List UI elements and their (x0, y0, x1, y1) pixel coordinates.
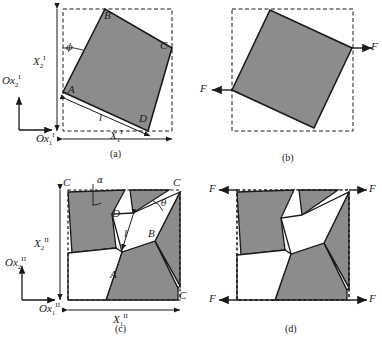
panel-c-length-label: l (124, 228, 127, 239)
panel-a-vertex-b-label: B (104, 10, 111, 21)
panel-c-angle-alpha-label: α (97, 176, 103, 185)
panel-c-caption: (c) (115, 323, 126, 334)
panel-b-force-label-right: F (371, 41, 378, 52)
panel-a-length-label: l (99, 112, 102, 123)
panel-a-square (63, 9, 172, 131)
figure-container: Ox2I Ox1I X2I X1I ϕ l A B C D (a) F F (b… (0, 0, 382, 358)
panel-c-vertex-d-label: D (112, 208, 120, 219)
panel-b (212, 9, 372, 131)
panel-a-vertex-a-label: A (68, 84, 75, 95)
panel-d-force-label-top-right: F (369, 183, 376, 194)
panel-d-force-label-bottom-left: F (209, 293, 216, 304)
panel-b-caption: (b) (282, 152, 294, 163)
panel-a-axis-x-label: Ox1I (36, 132, 55, 147)
panel-b-square (232, 10, 352, 128)
panel-a-axis-y-label: Ox2I (2, 74, 21, 89)
panel-c-corner-label-topright: C (173, 177, 180, 188)
panel-c-vertex-b-label: B (148, 228, 155, 239)
panel-a-axes (19, 97, 52, 130)
panel-d-force-label-top-left: F (209, 183, 216, 194)
panel-a-dim-horizontal-label: X1I (110, 129, 123, 144)
panel-a-vertex-c-label: C (160, 40, 167, 51)
panel-c-vertex-a-label: A (110, 269, 117, 280)
panel-c-dim-vertical-label: X2II (34, 237, 49, 252)
panel-a-caption: (a) (110, 148, 121, 159)
panel-a-angle-phi-label: ϕ (66, 42, 73, 52)
panel-c-axes (22, 266, 55, 300)
panel-d-caption: (d) (285, 323, 297, 334)
panel-b-force-label-left: F (200, 83, 207, 94)
panel-d (219, 190, 367, 300)
panel-a (19, 9, 172, 139)
panel-d-force-label-bottom-right: F (369, 293, 376, 304)
panel-c-axis-y-label: Ox2II (5, 256, 26, 271)
panel-a-vertex-d-label: D (139, 113, 147, 124)
panel-c-corner-label-bottomright: C (179, 290, 186, 301)
panel-c-axis-x-label: Ox1II (39, 302, 60, 317)
panel-c-angle-theta-label: θ (161, 199, 166, 208)
panel-a-dim-vertical-label: X2I (33, 55, 46, 70)
panel-c-corner-label-topleft: C (63, 177, 70, 188)
